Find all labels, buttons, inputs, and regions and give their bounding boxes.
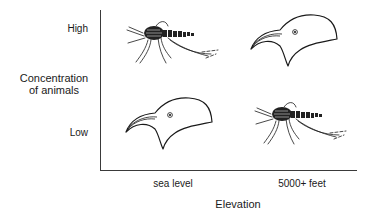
y-tick-low: Low (70, 127, 88, 139)
y-axis-title-line1: Concentration (14, 72, 94, 84)
x-tick-5000-feet: 5000+ feet (257, 178, 347, 190)
y-tick-high: High (67, 23, 88, 35)
x-tick-sea-level: sea level (128, 178, 218, 190)
mosquito-icon (126, 18, 221, 66)
bird-head-icon (125, 96, 215, 152)
y-axis-line (100, 10, 101, 171)
x-axis-line (100, 170, 357, 171)
mosquito-icon (254, 99, 349, 147)
y-axis-title: Concentration of animals (14, 72, 94, 96)
bird-head-icon (250, 14, 340, 68)
y-axis-title-line2: of animals (14, 84, 94, 96)
x-axis-title: Elevation (178, 198, 298, 210)
